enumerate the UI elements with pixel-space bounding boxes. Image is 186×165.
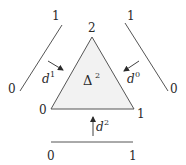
- bottom-edge-end-label: 1: [129, 149, 137, 163]
- simplex-label-sup: 2: [95, 71, 100, 80]
- vertex-label-bottom-left: 0: [39, 103, 47, 117]
- d1-label: d: [42, 72, 50, 86]
- simplex-triangle: [51, 37, 134, 109]
- right-edge-end-label: 1: [127, 9, 135, 23]
- d2-label-sup: 2: [104, 118, 109, 127]
- right-edge-start-label: 0: [170, 82, 178, 96]
- bottom-edge-start-label: 0: [47, 149, 55, 163]
- face-maps-diagram: 2 0 1 Δ 2 0 1 d 1 1 0 d 0 0 1 d 2: [0, 0, 186, 165]
- d0-label-sup: 0: [135, 70, 140, 79]
- simplex-label: Δ: [83, 73, 92, 88]
- diagram-canvas: 2 0 1 Δ 2 0 1 d 1 1 0 d 0 0 1 d 2: [0, 0, 186, 165]
- d1-label-sup: 1: [50, 70, 55, 79]
- vertex-label-bottom-right: 1: [137, 107, 145, 121]
- d1-arrow-icon: [48, 61, 63, 70]
- left-edge-line: [20, 25, 62, 91]
- d2-label: d: [96, 120, 104, 134]
- vertex-label-top: 2: [88, 21, 96, 35]
- d0-label: d: [127, 72, 135, 86]
- left-edge-end-label: 1: [52, 9, 60, 23]
- left-edge-start-label: 0: [8, 82, 16, 96]
